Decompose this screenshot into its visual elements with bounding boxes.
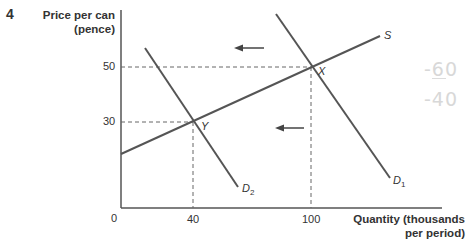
x-tick-40: 40: [187, 213, 199, 225]
x-axis-label: Quantity (thousands per period): [353, 212, 465, 240]
origin-label: 0: [111, 212, 117, 224]
y-tick-30: 30: [103, 115, 115, 127]
demand2-letter: D: [242, 182, 250, 194]
handwritten-divider: [432, 78, 446, 79]
x-tick-100: 100: [302, 213, 320, 225]
demand-curve-d2: [145, 48, 238, 187]
diagram-canvas: [0, 0, 473, 241]
y-tick-50: 50: [103, 60, 115, 72]
supply-label: S: [384, 29, 391, 41]
supply-curve: [121, 36, 380, 154]
handwritten-note-60: -60: [424, 58, 458, 80]
x-axis-label-line2: per period): [353, 226, 465, 240]
x-axis-label-line1: Quantity (thousands: [353, 212, 465, 226]
demand2-label: D2: [242, 182, 254, 197]
demand2-subscript: 2: [250, 188, 254, 197]
handwritten-note-40: -40: [424, 88, 458, 110]
demand1-label: D1: [393, 174, 405, 189]
demand1-letter: D: [393, 174, 401, 186]
point-y-label: Y: [201, 120, 208, 132]
demand1-subscript: 1: [401, 180, 405, 189]
point-x-label: X: [318, 65, 325, 77]
shift-arrow-bottom: [275, 125, 304, 132]
shift-arrow-top: [234, 45, 264, 52]
